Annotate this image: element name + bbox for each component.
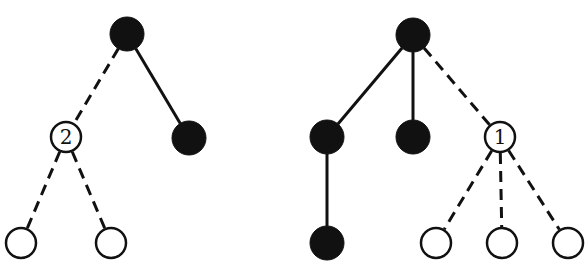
filled-node <box>110 17 144 51</box>
edge-solid <box>136 49 181 124</box>
open-node <box>96 228 126 258</box>
open-node <box>421 228 451 258</box>
open-node <box>6 228 36 258</box>
edge-solid <box>338 48 402 124</box>
node-label: 2 <box>60 125 73 149</box>
open-node <box>487 228 517 258</box>
edge-dashed <box>500 153 501 227</box>
edge-dashed <box>27 152 59 229</box>
left-tree: 2 <box>6 17 206 258</box>
edge-dashed <box>444 151 491 230</box>
edge-dashed <box>424 48 490 125</box>
edge-dashed <box>509 150 560 229</box>
filled-node <box>396 18 430 52</box>
right-tree: 1 <box>310 18 583 260</box>
open-node <box>553 228 583 258</box>
tree-diagram: 2 1 <box>0 0 588 277</box>
filled-node <box>396 120 430 154</box>
filled-node <box>310 120 344 154</box>
edge-dashed <box>74 49 118 124</box>
edge-dashed <box>72 152 104 229</box>
node-label: 1 <box>494 125 507 149</box>
filled-node <box>310 226 344 260</box>
filled-node <box>172 121 206 155</box>
